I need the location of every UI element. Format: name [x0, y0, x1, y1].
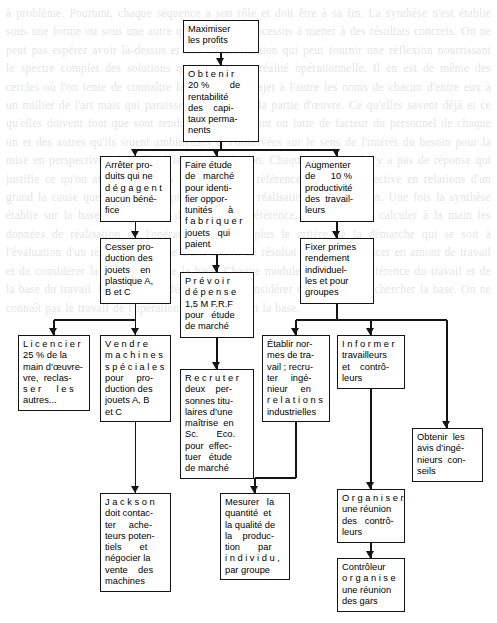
node-recruter-deux-personnes: R e c r u t e rdeux per-sonnes titu-lair… — [180, 369, 254, 479]
edge-etablir-to-mesurer-bus — [255, 477, 296, 479]
node-jackson-contacter-acheteurs: J a c k s o ndoit contac-ter ache-teurs … — [100, 493, 171, 592]
node-line: vente des — [105, 565, 166, 576]
node-line: travailleurs — [342, 350, 400, 361]
edge-etablir-to-mesurer-arrowhead — [250, 486, 258, 493]
node-line: tion par — [225, 542, 285, 553]
node-line: jouets en — [105, 265, 166, 276]
node-line: Arrêter pro- — [105, 160, 166, 171]
node-line: teurs poten- — [105, 531, 166, 542]
node-mesurer-quantite-qualite: Mesurer laquantité etla qualité dela pro… — [220, 493, 290, 580]
node-maximiser-les-profits: Maximiserles profits — [183, 20, 259, 53]
node-line: des capi- — [188, 103, 254, 114]
node-line: rentabilité — [188, 92, 254, 103]
node-line: industrielles — [267, 407, 325, 418]
node-line: autres... — [23, 395, 85, 406]
node-organiser-reunion-controleurs: O r g a n i s e rune réuniondes contrô-l… — [337, 489, 405, 543]
node-line: tuer étude — [185, 452, 249, 463]
node-obtenir-20-rentabilite: O b t e n i r20 % derentabilitédes capi-… — [183, 65, 259, 142]
edge-prevoir-to-recruter-arrowhead — [212, 362, 220, 369]
node-faire-etude-de-marche: Faire étudede marchépour identi-fier opp… — [180, 156, 254, 255]
node-line: 20 % de — [188, 80, 254, 91]
node-augmenter-productivite: Augmenterde 10 %productivitédes travail-… — [300, 156, 374, 222]
node-line: des gars — [342, 596, 400, 607]
node-line: productivité — [305, 183, 369, 194]
edge-obtenir20-to-augmenter-arrowhead — [332, 149, 340, 156]
node-line: o r g a n i s e — [342, 573, 400, 584]
edge-cesser-stem — [135, 304, 137, 320]
node-line: V e n d r e — [105, 339, 166, 350]
node-line: O b t e n i r — [188, 69, 254, 80]
node-line: I n f o r m e r — [342, 339, 400, 350]
node-line: aucun béné- — [105, 194, 166, 205]
node-line: leurs — [342, 373, 400, 384]
node-prevoir-depense: P r é v o i rd é p e n s e1,5 M F.R.Fpou… — [180, 272, 254, 338]
edge-informer-to-organiser-arrowhead — [366, 482, 374, 489]
edge-arreter-to-cesser-arrowhead — [131, 231, 139, 238]
node-line: leurs — [305, 205, 369, 216]
node-line: pour effec- — [185, 441, 249, 452]
edge-informer-to-organiser — [370, 389, 372, 489]
node-line: de marché — [185, 321, 249, 332]
edge-cesser-to-vendre-arrowhead — [131, 328, 139, 335]
edge-cesser-to-licencier-arrowhead — [49, 328, 57, 335]
node-line: une réunion — [342, 585, 400, 596]
node-line: duction des — [105, 253, 166, 264]
node-line: taux perma- — [188, 114, 254, 125]
node-line: Faire étude — [185, 160, 249, 171]
node-line: Établir nor- — [267, 339, 325, 350]
node-line: sonnes titu- — [185, 396, 249, 407]
node-vendre-machines: V e n d r em a c h i n e ss p é c i a l … — [100, 335, 171, 422]
node-line: de marché — [185, 463, 249, 474]
node-line: Mesurer la — [225, 497, 285, 508]
node-line: s e r l e s — [23, 384, 85, 395]
node-line: plastique A, — [105, 276, 166, 287]
node-line: R e c r u t e r — [185, 373, 249, 384]
node-line: individuel- — [305, 265, 369, 276]
edge-obtenir20-to-faire-etude-arrowhead — [212, 149, 220, 156]
node-line: des contrô- — [342, 516, 400, 527]
edge-obtenir20-to-arreter-arrowhead — [131, 149, 139, 156]
edge-faire-etude-to-prevoir-arrowhead — [212, 265, 220, 272]
node-line: L i c e n c i e r — [23, 339, 85, 350]
node-line: vail ; recru- — [267, 362, 325, 373]
node-cesser-production: Cesser pro-duction desjouets enplastique… — [100, 238, 171, 304]
node-line: la qualité de — [225, 520, 285, 531]
edge-fixer-primes-stem — [336, 304, 338, 320]
node-line: Contrôleur — [342, 562, 400, 573]
node-line: nieur en — [267, 384, 325, 395]
node-line: nieurs con- — [417, 455, 478, 466]
edge-maximiser-to-obtenir20-arrowhead — [216, 58, 224, 65]
node-line: 25 % de la — [23, 350, 85, 361]
node-line: pour pro- — [105, 373, 166, 384]
node-line: jouets qui — [185, 228, 249, 239]
node-line: les et pour — [305, 276, 369, 287]
edge-cesser-bus — [54, 319, 136, 321]
node-line: deux per- — [185, 384, 249, 395]
node-line: fier oppor- — [185, 194, 249, 205]
edge-etablir-to-mesurer-stem — [295, 422, 297, 478]
node-line: duits qui ne — [105, 171, 166, 182]
node-line: Augmenter — [305, 160, 369, 171]
node-line: main d’œuvre- — [23, 362, 85, 373]
node-line: i n d i v i d u , — [225, 553, 285, 564]
node-line: paient — [185, 239, 249, 250]
node-line: des travail- — [305, 194, 369, 205]
edge-fixer-primes-to-etablir-arrowhead — [291, 328, 299, 335]
node-line: rendement — [305, 253, 369, 264]
node-line: d é g a g e n t — [105, 183, 166, 194]
node-line: jouets A, B — [105, 395, 166, 406]
node-line: f a b r i q u e r — [185, 216, 249, 227]
node-line: machines — [105, 576, 166, 587]
edge-fixer-primes-to-informer-arrowhead — [366, 328, 374, 335]
edge-augmenter-to-fixer-primes-arrowhead — [332, 231, 340, 238]
node-line: tunités à — [185, 205, 249, 216]
node-line: leurs — [342, 527, 400, 538]
node-licencier-25: L i c e n c i e r25 % de lamain d’œuvre-… — [18, 335, 90, 411]
node-line: O r g a n i s e r — [342, 493, 400, 504]
node-line: 1,5 M F.R.F — [185, 299, 249, 310]
flowchart-page: à problème. Pourtant, chaque séquence a … — [0, 0, 497, 623]
node-line: nents — [188, 125, 254, 136]
edge-vendre-to-jackson-arrowhead — [131, 486, 139, 493]
node-line: duction des — [105, 384, 166, 395]
node-fixer-primes: Fixer primesrendementindividuel-les et p… — [300, 238, 374, 304]
